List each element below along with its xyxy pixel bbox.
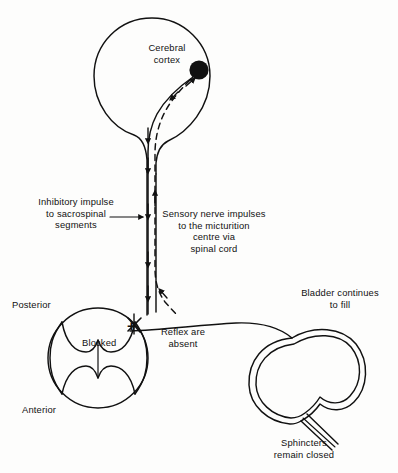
label-posterior: Posterior <box>12 299 74 311</box>
label-sphincters-remain-closed: Sphincters remain closed <box>252 437 356 460</box>
white-matter-left-column <box>50 322 62 394</box>
label-blocked: Blocked <box>82 337 134 349</box>
bladder-inner-wall <box>256 336 360 418</box>
label-reflex-absent: Reflex are absent <box>152 326 214 349</box>
ascending-sensory-tract <box>155 80 190 314</box>
label-anterior: Anterior <box>22 404 82 416</box>
tract-arrowheads-dashed <box>155 92 178 298</box>
label-sensory-impulses: Sensory nerve impulses to the micturitio… <box>154 208 274 254</box>
label-cerebral-cortex: Cerebral cortex <box>131 42 203 65</box>
label-inhibitory-impulse: Inhibitory impulse to sacrospinal segmen… <box>14 196 138 231</box>
label-blocked-plus-sign: + <box>127 318 141 333</box>
micturition-reflex-diagram: Cerebral cortex Inhibitory impulse to sa… <box>0 0 398 473</box>
label-bladder-continues-to-fill: Bladder continues to fill <box>292 287 388 310</box>
